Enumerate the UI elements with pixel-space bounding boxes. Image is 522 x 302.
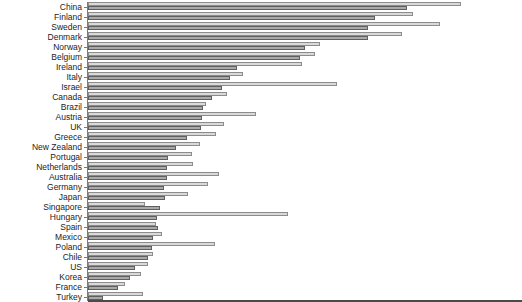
chart-row: Chile: [0, 252, 522, 262]
chart-row: Mexico: [0, 232, 522, 242]
bar-dark: [88, 286, 118, 290]
country-label: Ireland: [0, 62, 82, 72]
country-label: Austria: [0, 112, 82, 122]
bar-dark: [88, 226, 158, 230]
chart-row: Italy: [0, 72, 522, 82]
chart-row: Austria: [0, 112, 522, 122]
bar-dark: [88, 6, 407, 10]
bar-dark: [88, 146, 176, 150]
country-label: Germany: [0, 182, 82, 192]
chart-row: US: [0, 262, 522, 272]
bar-dark: [88, 126, 201, 130]
chart-row: Hungary: [0, 212, 522, 222]
chart-row: Greece: [0, 132, 522, 142]
bar-dark: [88, 196, 165, 200]
country-label: Japan: [0, 192, 82, 202]
bar-dark: [88, 296, 103, 300]
country-label: Israel: [0, 82, 82, 92]
bar-dark: [88, 256, 148, 260]
chart-row: Ireland: [0, 62, 522, 72]
country-label: China: [0, 2, 82, 12]
chart-row: Canada: [0, 92, 522, 102]
chart-row: Poland: [0, 242, 522, 252]
chart-row: Belgium: [0, 52, 522, 62]
bar-dark: [88, 266, 135, 270]
country-label: Spain: [0, 222, 82, 232]
country-label: Portugal: [0, 152, 82, 162]
chart-row: Japan: [0, 192, 522, 202]
bar-dark: [88, 276, 130, 280]
chart-row: Denmark: [0, 32, 522, 42]
bar-chart: ChinaFinlandSwedenDenmarkNorwayBelgiumIr…: [0, 0, 522, 302]
country-label: Hungary: [0, 212, 82, 222]
chart-row: Australia: [0, 172, 522, 182]
bar-dark: [88, 246, 152, 250]
chart-row: Finland: [0, 12, 522, 22]
bar-dark: [88, 186, 164, 190]
country-label: Denmark: [0, 32, 82, 42]
chart-row: New Zealand: [0, 142, 522, 152]
bar-dark: [88, 86, 222, 90]
bar-dark: [88, 76, 230, 80]
country-label: Sweden: [0, 22, 82, 32]
bar-dark: [88, 106, 203, 110]
chart-row: Turkey: [0, 292, 522, 302]
bar-dark: [88, 56, 300, 60]
country-label: Norway: [0, 42, 82, 52]
chart-row: UK: [0, 122, 522, 132]
chart-row: Sweden: [0, 22, 522, 32]
bar-dark: [88, 26, 368, 30]
bar-dark: [88, 206, 160, 210]
country-label: Australia: [0, 172, 82, 182]
chart-row: Israel: [0, 82, 522, 92]
chart-row: Spain: [0, 222, 522, 232]
bar-dark: [88, 136, 187, 140]
country-label: Korea: [0, 272, 82, 282]
country-label: Mexico: [0, 232, 82, 242]
country-label: Singapore: [0, 202, 82, 212]
chart-row: Singapore: [0, 202, 522, 212]
country-label: Belgium: [0, 52, 82, 62]
bar-dark: [88, 116, 202, 120]
chart-row: China: [0, 2, 522, 12]
chart-row: Brazil: [0, 102, 522, 112]
chart-row: Norway: [0, 42, 522, 52]
country-label: New Zealand: [0, 142, 82, 152]
country-label: Greece: [0, 132, 82, 142]
country-label: Chile: [0, 252, 82, 262]
bar-dark: [88, 156, 168, 160]
bar-dark: [88, 176, 167, 180]
bar-dark: [88, 36, 368, 40]
chart-row: Germany: [0, 182, 522, 192]
bar-dark: [88, 46, 305, 50]
country-label: Poland: [0, 242, 82, 252]
country-label: Turkey: [0, 292, 82, 302]
country-label: Netherlands: [0, 162, 82, 172]
bar-dark: [88, 16, 375, 20]
country-label: US: [0, 262, 82, 272]
country-label: France: [0, 282, 82, 292]
bar-dark: [88, 216, 157, 220]
country-label: Finland: [0, 12, 82, 22]
country-label: Canada: [0, 92, 82, 102]
bar-dark: [88, 66, 237, 70]
bar-dark: [88, 96, 212, 100]
chart-row: Korea: [0, 272, 522, 282]
chart-row: France: [0, 282, 522, 292]
country-label: Brazil: [0, 102, 82, 112]
bar-dark: [88, 166, 167, 170]
country-label: UK: [0, 122, 82, 132]
bar-dark: [88, 236, 153, 240]
country-label: Italy: [0, 72, 82, 82]
chart-row: Portugal: [0, 152, 522, 162]
chart-row: Netherlands: [0, 162, 522, 172]
